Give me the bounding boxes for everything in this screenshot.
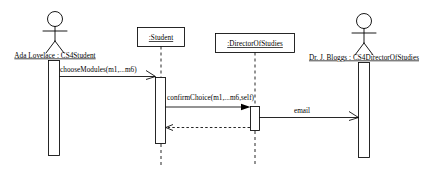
participant-ada-actor[interactable]: Ada Lovelace : CS4Student: [14, 12, 95, 60]
participant-label-ada: Ada Lovelace : CS4Student: [14, 52, 95, 60]
message-confirm-choice[interactable]: confirmChoice(m1,...m6,self): [166, 94, 255, 110]
arrowhead-filled-icon: [241, 104, 251, 110]
participant-bloggs-actor[interactable]: Dr. J. Bloggs : CS4DirectorOfStudies: [309, 14, 419, 62]
arrowhead-open-icon: [146, 71, 156, 80]
message-return-confirm[interactable]: [166, 125, 250, 131]
message-choose-modules[interactable]: chooseModules(m1,...m6): [60, 66, 156, 80]
message-label-choose-modules: chooseModules(m1,...m6): [60, 66, 137, 74]
participant-label-director: :DirectorOfStudies: [227, 40, 283, 48]
activation-bar-student[interactable]: [156, 78, 166, 144]
actor-head-icon: [357, 14, 372, 29]
participant-label-bloggs: Dr. J. Bloggs : CS4DirectorOfStudies: [309, 54, 419, 62]
activation-bar-director[interactable]: [251, 107, 260, 131]
participant-director-object[interactable]: :DirectorOfStudies: [216, 34, 295, 53]
diagram-canvas: Ada Lovelace : CS4Student :Student :Dire…: [0, 0, 429, 173]
message-label-email: email: [294, 107, 310, 115]
arrowhead-open-icon: [349, 112, 359, 121]
participant-student-object[interactable]: :Student: [138, 28, 185, 47]
message-label-confirm-choice: confirmChoice(m1,...m6,self): [167, 94, 255, 102]
uml-sequence-diagram: Ada Lovelace : CS4Student :Student :Dire…: [0, 0, 429, 173]
activation-bar-bloggs[interactable]: [359, 63, 370, 158]
actor-head-icon: [48, 12, 63, 27]
participant-label-student: :Student: [149, 34, 173, 42]
message-email[interactable]: email: [260, 107, 359, 121]
activation-bar-ada[interactable]: [49, 61, 60, 156]
